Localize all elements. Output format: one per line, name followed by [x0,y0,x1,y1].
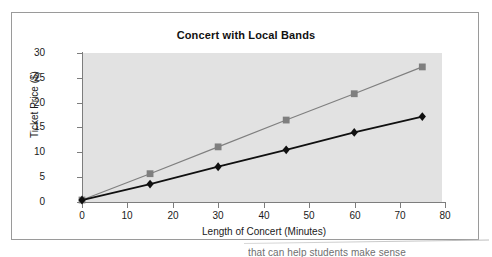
data-point-diamond [419,112,426,121]
data-point-diamond [215,162,222,171]
data-point-diamond [283,145,290,154]
data-point-diamond [351,128,358,137]
series-line [82,67,422,200]
data-point-square [147,170,154,177]
data-point-square [419,64,426,71]
series-plot [12,13,480,241]
data-point-diamond [146,180,153,189]
page-caption-fragment: that can help students make sense [248,248,492,257]
scanned-page-frame: Concert with Local Bands Ticket Price ($… [11,12,479,240]
data-point-square [351,90,358,97]
data-point-square [283,117,290,124]
data-point-square [215,143,222,150]
series-line [82,117,422,200]
